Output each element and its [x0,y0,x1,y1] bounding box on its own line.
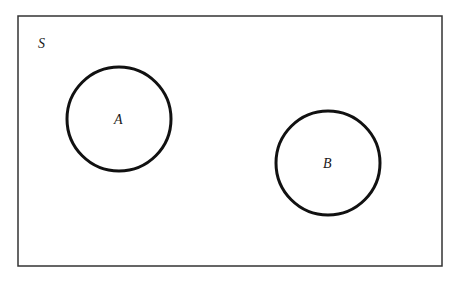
set-a-label: A [113,112,123,127]
universe-rectangle [18,16,442,266]
set-b-label: B [323,156,332,171]
universe-label: S [38,36,45,51]
venn-diagram: S A B [0,0,458,282]
